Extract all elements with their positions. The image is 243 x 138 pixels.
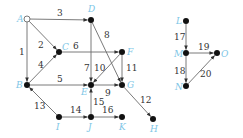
node-label-j: J	[86, 122, 93, 132]
edge-weight-label: 3	[57, 8, 63, 18]
edge-weight-label: 12	[140, 95, 151, 105]
edge-weight-label: 13	[34, 101, 46, 111]
node-label-c: C	[62, 42, 69, 52]
node-o	[214, 50, 220, 56]
edge-weight-label: 2	[38, 40, 44, 50]
node-g	[119, 82, 125, 88]
edge-weight-label: 19	[198, 42, 210, 52]
node-b	[24, 82, 30, 88]
node-l	[183, 18, 189, 24]
edge-weight-label: 14	[70, 105, 82, 115]
node-label-g: G	[127, 80, 134, 90]
edge-weight-label: 20	[200, 69, 212, 79]
node-label-b: B	[15, 80, 23, 90]
edge-weight-label: 18	[174, 66, 186, 76]
node-label-e: E	[80, 87, 88, 97]
node-label-f: F	[126, 47, 134, 57]
graph-canvas: 1234567891011121314151617181920 ADCFBEGI…	[0, 0, 243, 138]
node-label-m: M	[173, 49, 184, 59]
edge-a-d	[30, 19, 88, 20]
node-label-k: K	[118, 122, 127, 132]
edge-weight-label: 11	[126, 63, 137, 73]
edge-labels-group: 1234567891011121314151617181920	[19, 8, 212, 115]
edge-weight-label: 5	[57, 74, 63, 84]
node-a	[24, 16, 30, 22]
edge-weight-label: 10	[94, 63, 106, 73]
graph-diagram: 1234567891011121314151617181920 ADCFBEGI…	[0, 0, 243, 138]
node-label-o: O	[221, 49, 229, 59]
node-label-i: I	[55, 122, 60, 132]
node-m	[183, 50, 189, 56]
node-h	[150, 116, 156, 122]
node-label-a: A	[16, 14, 24, 24]
node-k	[119, 114, 125, 120]
node-label-l: L	[175, 16, 182, 26]
node-label-d: D	[87, 4, 95, 14]
edge-weight-label: 16	[102, 105, 114, 115]
edge-weight-label: 1	[19, 47, 25, 57]
edge-weight-label: 6	[73, 41, 79, 51]
node-n	[183, 83, 189, 89]
edge-weight-label: 17	[174, 32, 186, 42]
edge-weight-label: 9	[105, 88, 111, 98]
node-label-h: H	[149, 124, 158, 134]
node-label-n: N	[174, 82, 184, 92]
edges-group	[27, 19, 215, 117]
node-j	[88, 114, 94, 120]
edge-weight-label: 7	[84, 63, 90, 73]
edge-weight-label: 4	[38, 60, 44, 70]
edge-weight-label: 8	[104, 30, 110, 40]
node-i	[56, 114, 62, 120]
node-e	[88, 82, 94, 88]
node-f	[119, 49, 125, 55]
node-d	[88, 17, 94, 23]
